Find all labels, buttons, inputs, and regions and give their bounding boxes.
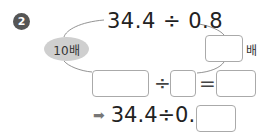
left-multiplier-label: 10배 — [44, 37, 89, 61]
equals-sign: = — [199, 71, 216, 95]
dividend-input[interactable] — [92, 70, 149, 97]
divisor-input[interactable] — [170, 70, 196, 97]
problem-number-badge: 2 — [13, 13, 30, 30]
right-multiplier-input[interactable] — [205, 35, 243, 62]
final-answer-input[interactable] — [196, 105, 236, 132]
right-unit-label: 배 — [246, 41, 257, 58]
top-expression: 34.4 ÷ 0.8 — [107, 9, 223, 33]
right-arrow-icon: ➡ — [93, 107, 105, 123]
quotient-input[interactable] — [216, 70, 256, 97]
divide-sign: ÷ — [154, 71, 171, 95]
